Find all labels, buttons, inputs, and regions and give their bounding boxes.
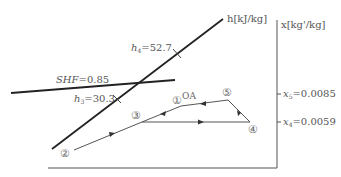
arrow-3-4	[198, 120, 204, 125]
arrow-2-3	[109, 132, 115, 137]
x5-label: x5=0.0085	[283, 89, 336, 100]
point-2-label: ②	[60, 148, 70, 159]
point-5-label: ⑤	[222, 87, 232, 98]
arrow-1-3	[160, 111, 166, 116]
enthalpy-axis-label: h[kJ/kg]	[227, 14, 267, 24]
point-3-label: ③	[131, 110, 141, 121]
process-path	[74, 100, 250, 150]
x4-label: x4=0.0059	[283, 117, 336, 128]
humidity-axis-label: x[kg'/kg]	[281, 20, 325, 30]
point-4-label: ④	[248, 124, 258, 135]
h4-label: h4=52.7	[131, 43, 172, 54]
shf-label: SHF=0.85	[56, 75, 109, 85]
point-1-label: ①OA	[172, 92, 196, 106]
h3-label: h3=30.3	[74, 94, 115, 105]
